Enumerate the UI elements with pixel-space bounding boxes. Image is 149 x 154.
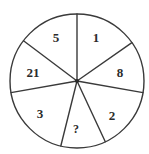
sector-label-21: 21	[27, 66, 40, 79]
sector-label-unknown: ?	[73, 123, 79, 135]
pie-chart-figure: 1 8 2 ? 3 21 5	[0, 0, 149, 154]
sector-label-2: 2	[109, 109, 116, 122]
sector-label-1: 1	[93, 31, 100, 44]
sector-label-3: 3	[37, 107, 44, 120]
pie-center-hub	[75, 79, 79, 83]
sector-label-5: 5	[53, 31, 60, 44]
sector-label-8: 8	[117, 66, 124, 79]
